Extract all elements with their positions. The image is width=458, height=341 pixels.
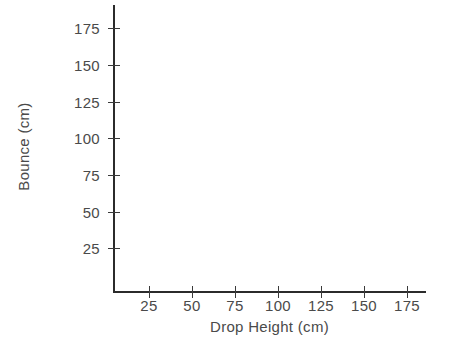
y-axis-tick-label: 50	[83, 204, 100, 221]
plot-area[interactable]	[115, 5, 426, 291]
y-axis-tick-label: 150	[74, 57, 100, 74]
x-axis-tick-label: 50	[183, 297, 200, 314]
y-axis-tick-label: 175	[74, 20, 100, 37]
chart-canvas: 175 150 125 100 75 50 25 25 50 75 100 12…	[0, 0, 458, 341]
x-axis-tick-label: 125	[308, 297, 334, 314]
x-axis-tick-label: 75	[226, 297, 243, 314]
y-axis-tick	[108, 102, 120, 103]
y-axis-title: Bounce (cm)	[12, 0, 34, 293]
y-axis-line	[113, 5, 115, 293]
x-axis-tick-label: 25	[140, 297, 157, 314]
y-axis-title-text: Bounce (cm)	[15, 102, 32, 190]
x-axis-tick-label: 175	[394, 297, 420, 314]
y-axis-tick-label: 25	[83, 240, 100, 257]
y-axis-tick	[108, 248, 120, 249]
y-axis-tick	[108, 175, 120, 176]
y-axis-tick	[108, 28, 120, 29]
x-axis-tick-label: 150	[351, 297, 377, 314]
y-axis-tick-label: 75	[83, 167, 100, 184]
y-axis-tick	[108, 138, 120, 139]
y-axis-tick-label: 125	[74, 94, 100, 111]
x-axis-line	[113, 291, 426, 293]
x-axis-tick-label: 100	[265, 297, 291, 314]
y-axis-tick	[108, 65, 120, 66]
y-axis-tick	[108, 212, 120, 213]
y-axis-tick-label: 100	[74, 130, 100, 147]
x-axis-title: Drop Height (cm)	[113, 318, 426, 335]
